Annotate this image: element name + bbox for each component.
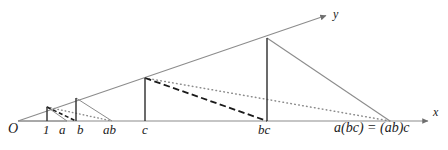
label-c: c — [142, 123, 148, 136]
label-b: b — [77, 123, 84, 136]
ray-big — [267, 38, 390, 121]
dashed-line-small — [47, 107, 76, 121]
label-a: a — [59, 123, 66, 136]
label-one: 1 — [43, 123, 50, 136]
label-x-axis: x — [433, 106, 438, 118]
label-bc: bc — [258, 123, 270, 136]
label-y-axis: y — [333, 8, 338, 20]
label-ab: ab — [103, 123, 116, 136]
y-axis — [18, 16, 326, 121]
label-product-identity: a(bc) = (ab)c — [334, 121, 410, 135]
label-origin: O — [8, 122, 18, 136]
geometry-figure: O 1 a b ab c bc a(bc) = (ab)c x y — [0, 0, 448, 150]
dashed-line-large — [145, 78, 267, 121]
